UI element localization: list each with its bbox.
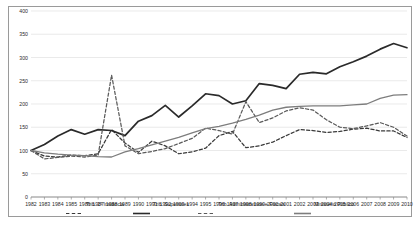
y-tick-label: 300 [10,55,28,61]
y-tick-label: 200 [10,101,28,107]
y-tick-label: 50 [10,171,28,177]
chart-plot-frame: 050100150200250300350400 198219831984198… [8,6,412,217]
y-tick-label: 400 [10,8,28,14]
legend-swatch-icon [294,202,311,207]
y-tick-label: 250 [10,78,28,84]
legend-item[interactable]: Trib. Superiores [133,201,189,207]
legend-swatch-icon [133,202,150,207]
legend-label: Trib. Administrativos e Fiscais [218,201,285,207]
y-tick-label: 100 [10,148,28,154]
chart-canvas [9,7,413,218]
legend-item[interactable]: Ministério Público [294,201,354,207]
chart-legend: Trib. 1ª InstânciaTrib. SuperioresTrib. … [10,198,410,210]
series-line-2 [31,75,407,159]
legend-label: Trib. Superiores [153,201,189,207]
legend-swatch-icon [198,202,215,207]
y-tick-label: 350 [10,31,28,37]
y-tick-label: 150 [10,124,28,130]
chart-figure: 050100150200250300350400 198219831984198… [0,0,420,233]
legend-label: Ministério Público [314,201,354,207]
legend-label: Trib. 1ª Instância [86,201,124,207]
series-line-1 [31,44,407,151]
legend-item[interactable]: Trib. Administrativos e Fiscais [198,201,285,207]
legend-swatch-icon [66,202,83,207]
legend-item[interactable]: Trib. 1ª Instância [66,201,124,207]
